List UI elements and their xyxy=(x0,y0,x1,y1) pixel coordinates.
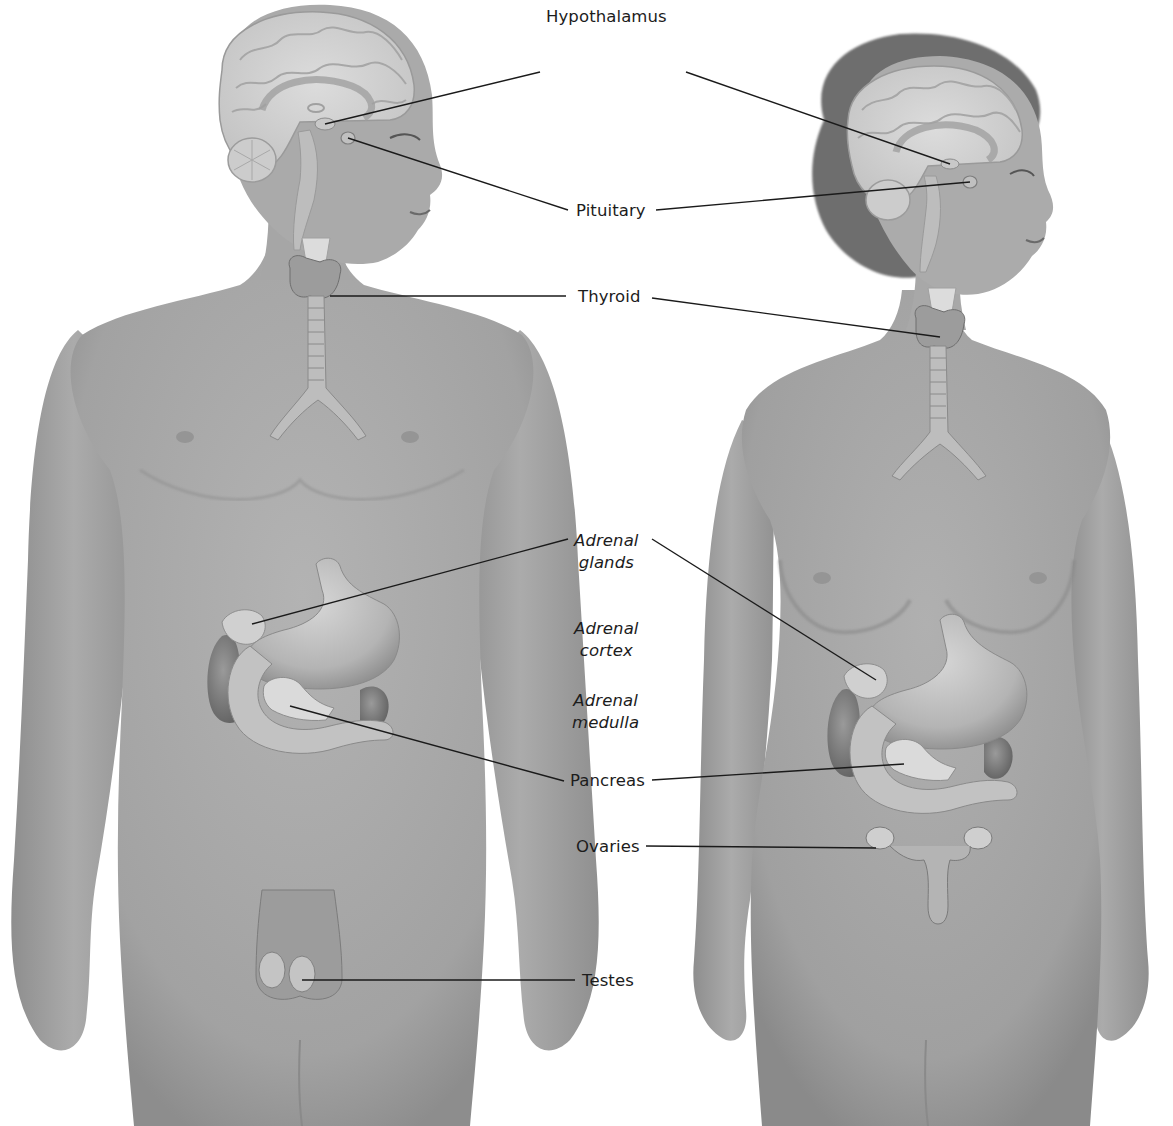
label-thyroid: Thyroid xyxy=(578,286,641,308)
female-nipple xyxy=(1029,572,1047,584)
label-hypothalamus: Hypothalamus xyxy=(546,6,667,28)
male-testis xyxy=(259,952,285,988)
female-ovary xyxy=(964,827,992,849)
female-figure xyxy=(693,33,1148,1126)
male-nipple xyxy=(176,431,194,443)
male-figure xyxy=(11,5,598,1126)
label-testes: Testes xyxy=(582,970,634,992)
female-nipple xyxy=(813,572,831,584)
label-pancreas: Pancreas xyxy=(570,770,645,792)
label-adrenal-glands: Adrenal glands xyxy=(574,530,639,574)
label-adrenal-cortex: Adrenal cortex xyxy=(574,618,639,662)
label-ovaries: Ovaries xyxy=(576,836,640,858)
female-ovary xyxy=(866,827,894,849)
label-adrenal-medulla: Adrenal medulla xyxy=(572,690,639,734)
endocrine-diagram: Hypothalamus Pituitary Thyroid Adrenal g… xyxy=(0,0,1173,1126)
female-thyroid xyxy=(915,306,965,349)
male-thyroid xyxy=(289,256,341,299)
label-pituitary: Pituitary xyxy=(576,200,646,222)
female-cerebellum xyxy=(866,180,910,220)
male-testis xyxy=(289,956,315,992)
male-nipple xyxy=(401,431,419,443)
